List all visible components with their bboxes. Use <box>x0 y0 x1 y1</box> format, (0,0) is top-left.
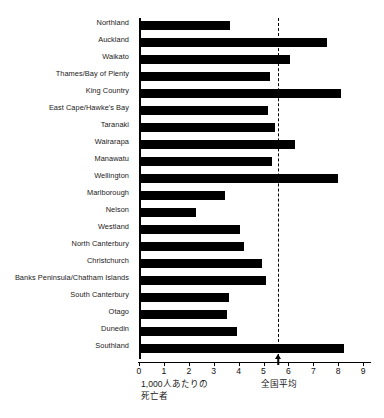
bar <box>139 21 230 30</box>
y-axis-line <box>139 18 141 359</box>
category-label: Auckland <box>0 36 129 44</box>
x-axis-tick-label: 4 <box>236 366 241 376</box>
category-label: Northland <box>0 19 129 27</box>
bar <box>139 327 237 336</box>
category-label: Thames/Bay of Plenty <box>0 70 129 78</box>
category-label: South Canterbury <box>0 291 129 299</box>
category-label: Manawatu <box>0 155 129 163</box>
national-average-arrow-stem <box>278 358 280 365</box>
bar <box>139 276 266 285</box>
bar-chart: NorthlandAucklandWaikatoThames/Bay of Pl… <box>0 0 384 418</box>
x-axis-line <box>138 362 371 363</box>
x-axis-tick-label: 7 <box>311 366 316 376</box>
bar <box>139 259 262 268</box>
bar <box>139 310 227 319</box>
national-average-label: 全国平均 <box>261 379 297 391</box>
bar <box>139 225 240 234</box>
bar <box>139 123 275 132</box>
bar <box>139 242 244 251</box>
x-axis-tick-label: 2 <box>186 366 191 376</box>
category-label: Nelson <box>0 206 129 214</box>
plot-area <box>139 18 369 358</box>
x-axis-tick-label: 8 <box>336 366 341 376</box>
bar <box>139 191 225 200</box>
x-axis-tick-label: 3 <box>211 366 216 376</box>
category-label: King Country <box>0 87 129 95</box>
x-axis-caption: 1,000人あたりの 死亡者 <box>141 379 208 402</box>
x-axis-tick-label: 9 <box>361 366 366 376</box>
bar <box>139 89 341 98</box>
category-label: Dunedin <box>0 325 129 333</box>
category-label: Otago <box>0 308 129 316</box>
x-axis-tick-label: 5 <box>261 366 266 376</box>
bar <box>139 157 272 166</box>
category-label: North Canterbury <box>0 240 129 248</box>
category-label: Southland <box>0 342 129 350</box>
x-axis-tick-label: 0 <box>137 366 142 376</box>
bar <box>139 344 344 353</box>
bar <box>139 174 338 183</box>
bar <box>139 55 290 64</box>
bar <box>139 106 268 115</box>
bar <box>139 208 196 217</box>
x-axis-tick-label: 6 <box>286 366 291 376</box>
category-label: Christchurch <box>0 257 129 265</box>
category-axis-labels: NorthlandAucklandWaikatoThames/Bay of Pl… <box>0 18 134 358</box>
category-label: Westland <box>0 223 129 231</box>
bar <box>139 38 327 47</box>
category-label: Marlborough <box>0 189 129 197</box>
bar <box>139 72 270 81</box>
x-axis-tick-label: 1 <box>162 366 167 376</box>
category-label: Taranaki <box>0 121 129 129</box>
category-label: Wairarapa <box>0 138 129 146</box>
chart-figure: NorthlandAucklandWaikatoThames/Bay of Pl… <box>0 0 384 418</box>
category-label: Waikato <box>0 53 129 61</box>
category-label: East Cape/Hawke's Bay <box>0 104 129 112</box>
category-label: Wellington <box>0 172 129 180</box>
bar <box>139 140 295 149</box>
national-average-line <box>278 18 279 362</box>
bar <box>139 293 229 302</box>
category-label: Banks Peninsula/Chatham Islands <box>0 274 129 282</box>
